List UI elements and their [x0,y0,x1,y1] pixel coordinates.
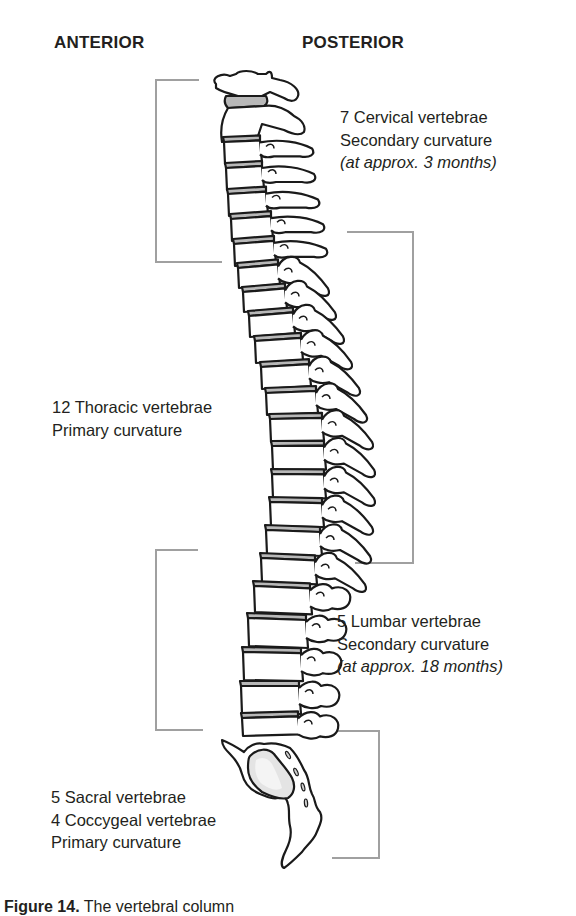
spinous-process [298,712,338,738]
cervical-curvature: Secondary curvature [340,129,497,152]
vertebral-body [272,474,326,498]
lumbar-bracket [156,550,203,730]
figure-number: Figure 14. [4,898,80,915]
spinous-process [262,166,315,182]
sacral-label: 5 Sacral vertebrae 4 Coccygeal vertebrae… [51,786,216,854]
spinous-process [299,682,339,708]
vertebral-body [270,502,324,527]
lumbar-count: 5 Lumbar vertebrae [337,610,503,633]
vertebral-body [243,652,303,681]
vertebral-body [266,530,322,556]
vertebral-body [270,418,324,442]
vertebral-body [241,686,301,714]
vertebral-body [261,364,311,389]
thoracic-curvature: Primary curvature [52,419,212,442]
cervical-count: 7 Cervical vertebrae [340,106,497,129]
lumbar-age: (at approx. 18 months) [337,655,503,678]
figure-caption-text: The vertebral column [84,898,234,915]
vertebral-body [272,446,326,470]
lumbar-label: 5 Lumbar vertebrae Secondary curvature (… [337,610,503,678]
sacral-bracket [332,731,379,858]
thoracic-label: 12 Thoracic vertebrae Primary curvature [52,396,212,441]
spinous-process [274,241,327,257]
lumbar-curvature: Secondary curvature [337,633,503,656]
spinous-process [301,649,341,675]
sacral-curvature: Primary curvature [51,831,216,854]
spinous-process [266,192,319,208]
spinous-process [260,141,313,157]
anterior-heading: ANTERIOR [54,33,144,53]
vertebral-body [261,558,317,584]
vertebral-body [254,586,312,614]
sacrum-coccyx [222,740,321,868]
cervical-bracket [156,80,222,262]
vertebral-body [266,391,318,415]
posterior-heading: POSTERIOR [302,33,404,53]
sacral-count: 5 Sacral vertebrae [51,786,216,809]
vertebral-body [248,618,308,648]
vertebral-body [242,716,300,736]
coccygeal-count: 4 Coccygeal vertebrae [51,809,216,832]
cervical-age: (at approx. 3 months) [340,151,497,174]
vertebral-column [214,71,304,142]
figure-caption: Figure 14. The vertebral column [4,898,234,916]
spinous-process [310,584,350,610]
spinous-process [271,217,324,233]
thoracic-count: 12 Thoracic vertebrae [52,396,212,419]
cervical-label: 7 Cervical vertebrae Secondary curvature… [340,106,497,174]
